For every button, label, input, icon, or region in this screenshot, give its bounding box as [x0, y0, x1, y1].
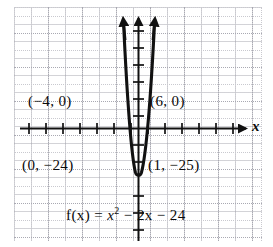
function-lhs: f(x) = — [66, 207, 107, 223]
label-x-intercept-right: (6, 0) — [150, 93, 185, 110]
graph-figure: (−4, 0) (6, 0) (0, −24) (1, −25) x f(x) … — [0, 0, 273, 247]
function-rest: − 2x − 24 — [120, 207, 186, 223]
label-vertex: (1, −25) — [148, 157, 200, 174]
x-axis — [20, 123, 246, 134]
label-y-intercept: (0, −24) — [22, 157, 74, 174]
function-equation-label: f(x) = x2 − 2x − 24 — [66, 207, 186, 224]
x-axis-label: x — [252, 118, 260, 135]
label-x-intercept-left: (−4, 0) — [28, 93, 72, 110]
